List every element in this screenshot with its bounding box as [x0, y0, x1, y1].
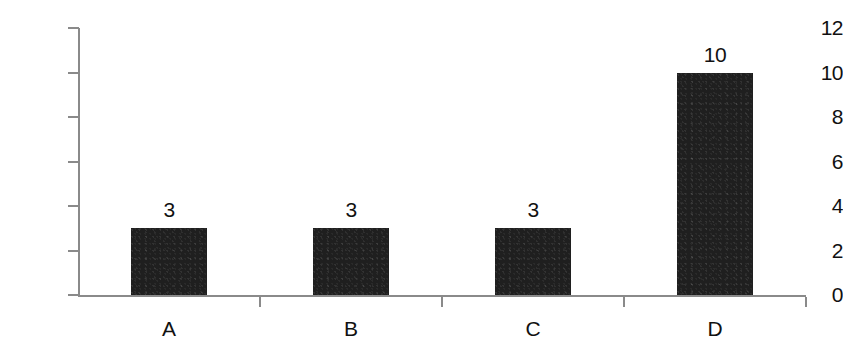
y-axis-tick-label-0: 0	[801, 284, 843, 305]
bar-value-label-b: 3	[311, 199, 391, 220]
y-axis-tick-label-12: 12	[801, 17, 843, 38]
y-axis-tick-label-8: 8	[801, 106, 843, 127]
bar-value-label-c: 3	[493, 199, 573, 220]
bar-d	[677, 73, 753, 296]
category-label-a: A	[129, 318, 209, 339]
x-axis-tick-4	[805, 297, 807, 307]
bar-value-label-a: 3	[129, 199, 209, 220]
category-label-c: C	[493, 318, 573, 339]
bar-c	[495, 228, 571, 295]
bar-a	[131, 228, 207, 295]
bar-b	[313, 228, 389, 295]
x-axis-tick-1	[259, 297, 261, 307]
bar-value-label-d: 10	[675, 44, 755, 65]
y-axis-tick-label-2: 2	[801, 240, 843, 261]
y-axis-line	[78, 28, 80, 297]
y-axis-tick-label-10: 10	[801, 62, 843, 83]
category-label-d: D	[675, 318, 755, 339]
y-axis-tick-label-4: 4	[801, 195, 843, 216]
x-axis-tick-2	[441, 297, 443, 307]
y-axis-tick-label-6: 6	[801, 151, 843, 172]
category-label-b: B	[311, 318, 391, 339]
bar-chart: 024681012 33310 ABCD	[0, 0, 843, 364]
x-axis-tick-3	[623, 297, 625, 307]
